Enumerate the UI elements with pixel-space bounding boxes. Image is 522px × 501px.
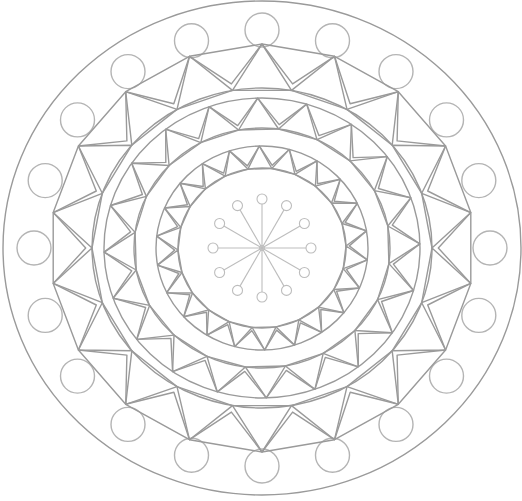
triangle [233, 44, 292, 90]
triangle [207, 356, 245, 392]
bead-circle [462, 298, 496, 332]
triangle [347, 92, 398, 146]
triangle [292, 387, 348, 440]
triangle [201, 107, 239, 143]
bead-circle [245, 13, 279, 47]
bead-circle [462, 164, 496, 198]
triangle [378, 264, 414, 300]
triangle [104, 232, 136, 270]
triangle [388, 226, 420, 264]
triangle [165, 207, 191, 228]
bead-circle [175, 24, 209, 58]
bead-circle [430, 103, 464, 137]
bead-circle [61, 359, 95, 393]
triangle [245, 366, 285, 398]
center-star-icon [208, 194, 316, 302]
bead-circle [28, 298, 62, 332]
triangle [137, 305, 174, 339]
bead-circle [430, 359, 464, 393]
bead-circle [28, 164, 62, 198]
triangle [207, 310, 229, 335]
triangle [252, 327, 276, 350]
triangle [177, 387, 233, 440]
triangle [292, 56, 348, 109]
triangle [233, 406, 292, 452]
triangle [248, 146, 272, 169]
triangle [202, 164, 225, 189]
triangle [167, 273, 193, 294]
triangle [334, 269, 360, 290]
triangle [332, 203, 358, 224]
triangle [177, 56, 233, 109]
triangle [279, 104, 317, 140]
bead-circle [316, 24, 350, 58]
triangle [285, 353, 323, 389]
triangle [295, 161, 317, 186]
bead-circle [316, 438, 350, 472]
mandala-svg [0, 0, 522, 501]
triangle [126, 92, 177, 146]
triangle [126, 351, 177, 405]
triangle [299, 307, 322, 332]
mandala-drawing [0, 0, 522, 501]
bead-circle [473, 231, 507, 265]
triangle [347, 351, 398, 405]
bead-circle [61, 103, 95, 137]
bead-circle [175, 438, 209, 472]
bead-circle [17, 231, 51, 265]
triangle [350, 157, 387, 191]
triangle [111, 196, 147, 232]
bead-circle [245, 449, 279, 483]
triangle [239, 98, 279, 130]
